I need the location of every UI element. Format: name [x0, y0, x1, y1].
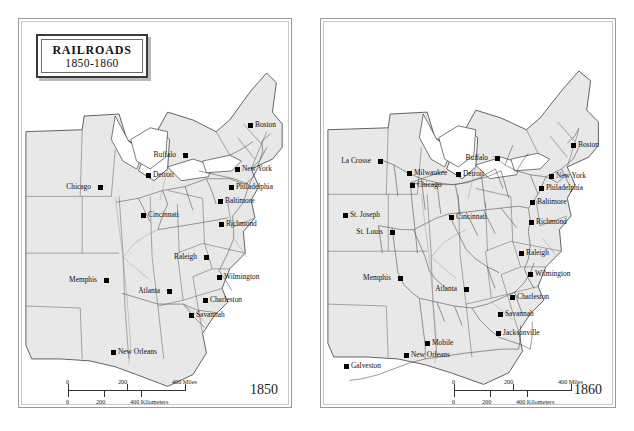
city-label: New Orleans [411, 351, 450, 359]
scale-tick-km-0-1860 [454, 390, 455, 397]
city-dot-icon [404, 353, 409, 358]
city-label: Detroit [153, 171, 174, 179]
city-dot-icon [510, 295, 515, 300]
year-label-1860: 1860 [574, 382, 602, 398]
city-label: Galveston [351, 362, 381, 370]
map-title-daterange: 1850-1860 [65, 57, 118, 70]
city-label: Wilmington [535, 270, 570, 278]
city-dot-icon [398, 276, 403, 281]
city-label: Milwaukee [414, 169, 447, 177]
city-label: Raleigh [174, 253, 197, 261]
map-title-box: RAILROADS 1850-1860 [36, 34, 148, 78]
city-label: St. Louis [356, 228, 383, 236]
city-label: St. Joseph [350, 211, 380, 219]
city-label: Savannah [505, 310, 534, 318]
city-dot-icon [146, 173, 151, 178]
city-dot-icon [449, 215, 454, 220]
city-label: Wilmington [224, 273, 259, 281]
city-label: Atlanta [435, 285, 457, 293]
city-label: Charleston [210, 296, 242, 304]
scale-tick-mi-200 [127, 384, 128, 391]
city-dot-icon [530, 200, 535, 205]
scale-tick-km-200 [104, 390, 105, 397]
city-dot-icon [219, 222, 224, 227]
city-label: Detroit [463, 170, 484, 178]
city-dot-icon [571, 143, 576, 148]
map-title-inner: RAILROADS 1850-1860 [41, 39, 143, 73]
scale-tick-km-400 [141, 390, 142, 397]
scale-label-km-0-1860: 0 [452, 398, 455, 405]
city-label: Boston [255, 121, 276, 129]
city-label: Memphis [69, 276, 97, 284]
city-dot-icon [104, 278, 109, 283]
city-dot-icon [235, 167, 240, 172]
scale-label-mi-0: 0 [66, 378, 69, 385]
city-dot-icon [529, 220, 534, 225]
city-dot-icon [183, 153, 188, 158]
city-dot-icon [464, 287, 469, 292]
city-dot-icon [407, 171, 412, 176]
city-label: Mobile [432, 339, 453, 347]
city-label: Jacksonville [503, 329, 540, 337]
map-panel-1860: 0 200 400 Miles 0 200 400 Kilometers 186… [320, 18, 616, 408]
city-label: Buffalo [466, 154, 488, 162]
city-dot-icon [248, 123, 253, 128]
city-dot-icon [495, 156, 500, 161]
scale-tick-mi-200-1860 [513, 384, 514, 391]
scale-tick-km-0 [68, 390, 69, 397]
city-dot-icon [344, 364, 349, 369]
city-label: New Orleans [118, 348, 157, 356]
scale-tick-mi-400 [185, 384, 186, 391]
city-dot-icon [229, 185, 234, 190]
city-label: Philadelphia [546, 184, 583, 192]
city-dot-icon [498, 312, 503, 317]
city-dot-icon [111, 350, 116, 355]
panel-1860-inner-border: 0 200 400 Miles 0 200 400 Kilometers 186… [323, 21, 613, 405]
city-label: Cincinnati [148, 211, 179, 219]
city-dot-icon [425, 341, 430, 346]
year-label-1850: 1850 [250, 382, 278, 398]
city-label: Chicago [417, 181, 442, 189]
city-label: Memphis [363, 274, 391, 282]
city-label: Baltimore [537, 198, 567, 206]
city-dot-icon [98, 185, 103, 190]
city-label: La Crosse [341, 157, 371, 165]
city-dot-icon [203, 298, 208, 303]
city-dot-icon [410, 183, 415, 188]
city-dot-icon [519, 251, 524, 256]
panel-1850-inner-border: RAILROADS 1850-1860 0 200 400 Miles 0 20… [21, 21, 289, 405]
city-dot-icon [189, 313, 194, 318]
city-label: Philadelphia [236, 183, 273, 191]
city-label: Richmond [536, 218, 567, 226]
city-label: Chicago [66, 183, 91, 191]
city-label: Savannah [196, 311, 225, 319]
city-dot-icon [456, 172, 461, 177]
map-figure: RAILROADS 1850-1860 0 200 400 Miles 0 20… [0, 0, 634, 431]
landmass-1850 [26, 73, 282, 386]
scale-label-mi-200-1860: 200 [504, 378, 513, 385]
city-dot-icon [204, 255, 209, 260]
city-dot-icon [528, 272, 533, 277]
city-label: Raleigh [526, 249, 549, 257]
scale-label-mi-400: 400 Miles [172, 378, 197, 385]
scale-label-km-400-1860: 400 Kilometers [516, 398, 554, 405]
city-dot-icon [549, 174, 554, 179]
city-dot-icon [343, 213, 348, 218]
scale-label-km-200: 200 [96, 398, 105, 405]
city-dot-icon [167, 289, 172, 294]
scale-label-km-200-1860: 200 [482, 398, 491, 405]
scale-tick-km-400-1860 [527, 390, 528, 397]
city-label: Atlanta [138, 287, 160, 295]
city-label: Buffalo [154, 151, 176, 159]
city-label: Charleston [517, 293, 549, 301]
map-title-primary: RAILROADS [52, 43, 131, 57]
city-label: Cincinnati [456, 213, 487, 221]
city-dot-icon [390, 230, 395, 235]
map-panel-1850: RAILROADS 1850-1860 0 200 400 Miles 0 20… [18, 18, 292, 408]
scale-tick-km-200-1860 [490, 390, 491, 397]
scale-label-km-0: 0 [66, 398, 69, 405]
city-label: Boston [578, 141, 599, 149]
city-label: Baltimore [225, 197, 255, 205]
city-dot-icon [141, 213, 146, 218]
scale-label-km-400: 400 Kilometers [130, 398, 168, 405]
